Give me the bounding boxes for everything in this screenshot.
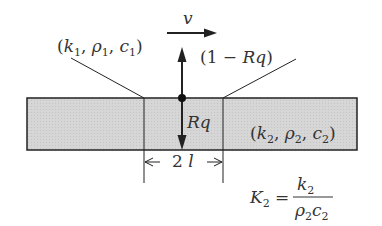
velocity-arrow-icon xyxy=(167,29,217,38)
medium-1-leader-line xyxy=(71,58,144,98)
svg-text:ρ2c2: ρ2c2 xyxy=(294,200,329,223)
flux-up-arrow-icon xyxy=(178,47,187,98)
flux-down-label: Rq xyxy=(186,112,211,132)
svg-text:k2: k2 xyxy=(297,174,314,197)
diffusivity-formula: K2 = k2 ρ2c2 xyxy=(249,174,333,223)
flux-up-label: (1 − Rq) xyxy=(200,47,273,67)
heat-source-point xyxy=(178,94,186,102)
velocity-label: v xyxy=(183,8,193,28)
medium-1-label: (k1, ρ1, c1) xyxy=(57,36,143,59)
svg-text:K2 =: K2 = xyxy=(249,187,289,210)
width-label: 2 l xyxy=(172,151,194,171)
heat-source-diagram: v (k1, ρ1, c1) (1 − Rq) Rq (k2, ρ2, c2) … xyxy=(0,0,382,226)
